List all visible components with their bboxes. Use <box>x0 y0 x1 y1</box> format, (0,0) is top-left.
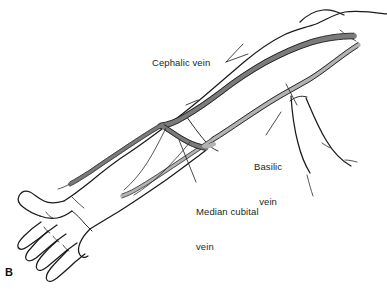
torso-contour-outer <box>306 98 351 166</box>
median-cubital-vein-group <box>164 125 214 151</box>
hand-ulnar-outline <box>79 229 91 257</box>
label-median-cubital-vein: Median cubital vein <box>196 183 259 275</box>
thumb-crease <box>46 212 53 218</box>
label-basilic-line1: Basilic <box>254 161 282 173</box>
arm-vein-illustration <box>0 0 387 289</box>
torso-contour-inner <box>291 96 310 173</box>
palm-edge-outline <box>72 211 92 231</box>
hand-dorsum-outline <box>18 191 64 216</box>
wrist-crease <box>72 197 84 208</box>
hand-group <box>18 191 92 281</box>
cephalic-vein-forearm-fill <box>70 126 160 184</box>
label-median-line1: Median cubital <box>196 206 259 218</box>
cephalic-tributary-wrist <box>58 184 70 189</box>
basilic-vein-edge-upper <box>212 43 358 138</box>
anatomy-figure: Cephalic vein Basilic vein Median cubita… <box>0 0 387 289</box>
panel-letter-b: B <box>5 266 13 278</box>
label-cephalic-vein: Cephalic vein <box>152 57 210 69</box>
cephalic-vein-forearm-edge-upper <box>70 124 160 182</box>
torso-dash-right <box>345 160 357 162</box>
torso-tick-lower <box>307 175 313 196</box>
median-cubital-basilic-junction <box>204 144 214 146</box>
basilic-leader-line <box>266 112 281 135</box>
thumb-outline <box>40 211 72 218</box>
shoulder-outline <box>300 10 344 22</box>
label-median-line2: vein <box>196 241 259 253</box>
